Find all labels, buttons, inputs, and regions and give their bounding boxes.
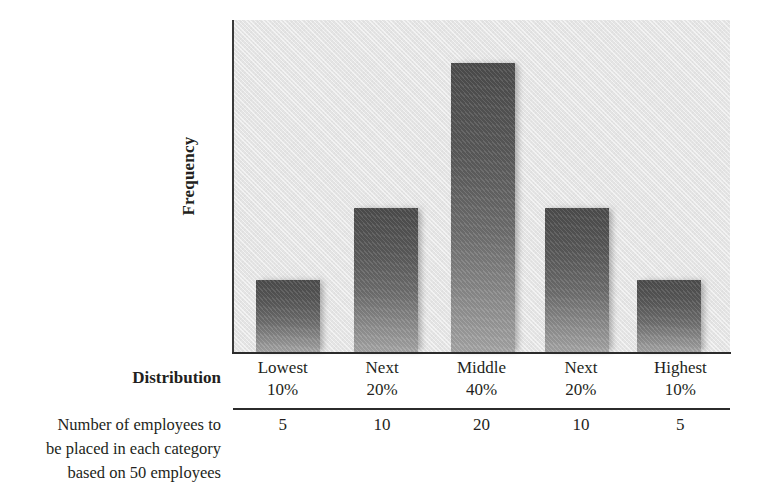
category-cell: Middle 40% — [432, 357, 531, 401]
count-label-line-3: based on 50 employees — [0, 461, 221, 485]
employee-count-row-label: Number of employees to be placed in each… — [0, 413, 221, 485]
x-axis-line — [232, 352, 731, 354]
category-name: Highest — [631, 357, 730, 379]
category-percent: 40% — [432, 379, 531, 401]
y-axis-line — [232, 20, 234, 354]
category-percent: 10% — [233, 379, 332, 401]
employee-count-cell: 10 — [332, 414, 431, 436]
category-cell: Lowest 10% — [233, 357, 332, 401]
bar-lowest-10 — [256, 280, 320, 352]
bar-middle-40 — [451, 63, 515, 352]
distribution-row-label: Distribution — [132, 368, 221, 388]
category-name: Lowest — [233, 357, 332, 379]
employee-count-row: 5 10 20 10 5 — [233, 414, 730, 436]
count-label-line-2: be placed in each category — [0, 437, 221, 461]
employee-count-cell: 5 — [233, 414, 332, 436]
category-name: Next — [332, 357, 431, 379]
category-percent: 20% — [332, 379, 431, 401]
category-cell: Next 20% — [531, 357, 630, 401]
bar-next-20-high — [545, 208, 609, 352]
chart-plot-area — [233, 20, 730, 352]
employee-count-cell: 5 — [631, 414, 730, 436]
employee-count-cell: 10 — [531, 414, 630, 436]
bar-next-20-low — [354, 208, 418, 352]
category-percent: 20% — [531, 379, 630, 401]
category-cell: Highest 10% — [631, 357, 730, 401]
table-divider-rule — [233, 408, 730, 410]
count-label-line-1: Number of employees to — [0, 413, 221, 437]
employee-count-cell: 20 — [432, 414, 531, 436]
category-cell: Next 20% — [332, 357, 431, 401]
category-name: Middle — [432, 357, 531, 379]
category-header-row: Lowest 10% Next 20% Middle 40% Next 20% … — [233, 357, 730, 401]
category-name: Next — [531, 357, 630, 379]
bar-highest-10 — [637, 280, 701, 352]
y-axis-title: Frequency — [179, 106, 199, 246]
category-percent: 10% — [631, 379, 730, 401]
forced-distribution-figure: Frequency Distribution Lowest 10% Next 2… — [0, 0, 768, 500]
